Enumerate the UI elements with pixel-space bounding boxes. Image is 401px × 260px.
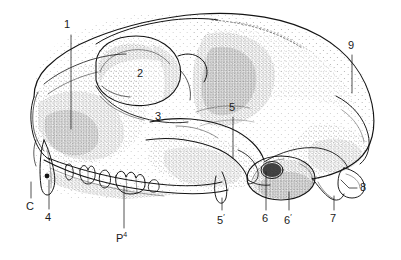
figure-container: 1 2 3 5 9 8 C 4 P4 5′ 6 6′ 7 — [0, 0, 401, 260]
p4-superscript: 4 — [123, 231, 127, 238]
foramen-dot — [45, 174, 50, 179]
auditory-meatus — [263, 163, 282, 177]
callout-label-9: 9 — [348, 40, 354, 51]
callout-label-6: 6 — [262, 213, 268, 224]
callout-label-5: 5 — [229, 102, 235, 113]
callout-label-1: 1 — [64, 19, 70, 30]
prime-mark-5: ′ — [223, 212, 225, 221]
callout-label-6-prime: 6′ — [284, 213, 292, 226]
callout-label-3: 3 — [155, 111, 161, 122]
leader-8 — [341, 180, 357, 188]
callout-label-4: 4 — [45, 212, 51, 223]
callout-label-2: 2 — [137, 68, 143, 79]
callout-label-8: 8 — [360, 182, 366, 193]
callout-label-canine: C — [26, 201, 34, 212]
callout-label-5-prime: 5′ — [217, 213, 225, 226]
callout-label-7: 7 — [330, 213, 336, 224]
callout-label-p4: P4 — [116, 231, 127, 244]
skull-illustration — [0, 0, 401, 260]
skull-drawing — [20, 8, 390, 228]
prime-mark-6: ′ — [290, 212, 292, 221]
